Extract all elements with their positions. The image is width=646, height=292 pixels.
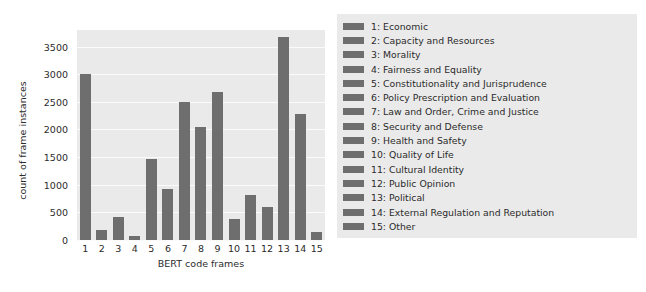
legend-item-label: 7: Law and Order, Crime and Justice (371, 106, 539, 117)
legend-item-label: 8: Security and Defense (371, 121, 483, 132)
x-tick-label: 13 (275, 243, 292, 257)
legend-swatch-icon (343, 180, 364, 187)
legend-item: 13: Political (343, 191, 631, 205)
bar (96, 230, 107, 241)
x-tick-label: 6 (160, 243, 177, 257)
legend-item-label: 10: Quality of Life (371, 149, 454, 160)
legend-item-label: 3: Morality (371, 49, 421, 60)
bar (245, 195, 256, 240)
bar-slot (242, 30, 259, 240)
x-tick-label: 1 (77, 243, 94, 257)
x-tick-label: 2 (94, 243, 111, 257)
y-tick-label: 2500 (44, 96, 68, 107)
legend-swatch-icon (343, 209, 364, 216)
legend-item-label: 14: External Regulation and Reputation (371, 207, 554, 218)
bar (129, 236, 140, 240)
bar-slot (226, 30, 243, 240)
y-tick-label: 1000 (44, 179, 68, 190)
bar (212, 92, 223, 240)
legend-item: 5: Constitutionality and Jurisprudence (343, 76, 631, 90)
legend-item-label: 12: Public Opinion (371, 178, 455, 189)
legend-item: 9: Health and Safety (343, 133, 631, 147)
x-tick-label: 10 (226, 243, 243, 257)
x-axis-tick-labels: 123456789101112131415 (77, 243, 325, 257)
y-axis-tick-labels: 0500100015002000250030003500 (0, 30, 73, 240)
y-tick-label: 0 (62, 235, 68, 246)
y-tick-label: 500 (50, 207, 68, 218)
legend-swatch-icon (343, 94, 364, 101)
bar-slot (94, 30, 111, 240)
legend-swatch-icon (343, 23, 364, 30)
legend-item: 1: Economic (343, 19, 631, 33)
legend-item-label: 15: Other (371, 221, 415, 232)
legend-item: 12: Public Opinion (343, 176, 631, 190)
bar-slot (275, 30, 292, 240)
legend-swatch-icon (343, 166, 364, 173)
legend-item: 3: Morality (343, 48, 631, 62)
x-tick-label: 12 (259, 243, 276, 257)
bar-slot (77, 30, 94, 240)
bar-slot (292, 30, 309, 240)
legend-swatch-icon (343, 51, 364, 58)
legend-swatch-icon (343, 80, 364, 87)
x-tick-label: 7 (176, 243, 193, 257)
bar-slot (308, 30, 325, 240)
bar (295, 114, 306, 240)
bar (278, 37, 289, 240)
bar (80, 74, 91, 240)
legend-item: 4: Fairness and Equality (343, 62, 631, 76)
bar-slot (160, 30, 177, 240)
y-tick-label: 2000 (44, 124, 68, 135)
bar (195, 127, 206, 240)
bar-slot (176, 30, 193, 240)
legend-item-label: 2: Capacity and Resources (371, 35, 495, 46)
legend-item: 6: Policy Prescription and Evaluation (343, 90, 631, 104)
bar-series (77, 30, 325, 240)
legend-item: 11: Cultural Identity (343, 162, 631, 176)
legend: 1: Economic2: Capacity and Resources3: M… (337, 14, 637, 238)
legend-item-label: 13: Political (371, 192, 425, 203)
legend-item: 8: Security and Defense (343, 119, 631, 133)
x-tick-label: 3 (110, 243, 127, 257)
bar (113, 217, 124, 240)
legend-item: 10: Quality of Life (343, 148, 631, 162)
x-axis-label: BERT code frames (77, 258, 325, 269)
bar (179, 102, 190, 240)
legend-swatch-icon (343, 123, 364, 130)
legend-swatch-icon (343, 194, 364, 201)
bar-slot (259, 30, 276, 240)
legend-item-label: 1: Economic (371, 21, 428, 32)
x-tick-label: 11 (242, 243, 259, 257)
bar-slot (193, 30, 210, 240)
bar (262, 207, 273, 240)
legend-item-label: 6: Policy Prescription and Evaluation (371, 92, 540, 103)
legend-item: 7: Law and Order, Crime and Justice (343, 105, 631, 119)
gridline (77, 240, 325, 241)
bar (229, 219, 240, 240)
bar-slot (110, 30, 127, 240)
legend-swatch-icon (343, 137, 364, 144)
legend-swatch-icon (343, 66, 364, 73)
legend-item-label: 11: Cultural Identity (371, 164, 464, 175)
x-tick-label: 8 (193, 243, 210, 257)
legend-swatch-icon (343, 223, 364, 230)
legend-swatch-icon (343, 108, 364, 115)
bar (162, 189, 173, 240)
legend-swatch-icon (343, 151, 364, 158)
legend-item-label: 5: Constitutionality and Jurisprudence (371, 78, 547, 89)
bar (146, 159, 157, 240)
legend-item: 2: Capacity and Resources (343, 33, 631, 47)
legend-item: 14: External Regulation and Reputation (343, 205, 631, 219)
bar (311, 232, 322, 240)
legend-item-label: 4: Fairness and Equality (371, 64, 482, 75)
y-tick-label: 3000 (44, 69, 68, 80)
x-tick-label: 4 (127, 243, 144, 257)
legend-item-label: 9: Health and Safety (371, 135, 467, 146)
plot-area (77, 30, 325, 240)
bar-slot (209, 30, 226, 240)
legend-swatch-icon (343, 37, 364, 44)
x-tick-label: 5 (143, 243, 160, 257)
x-tick-label: 15 (308, 243, 325, 257)
legend-item: 15: Other (343, 219, 631, 233)
bar-slot (127, 30, 144, 240)
